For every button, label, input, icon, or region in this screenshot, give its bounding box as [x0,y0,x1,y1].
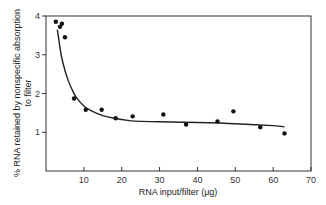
data-point [54,20,58,24]
y-axis-ticks: 1234 [35,11,46,137]
data-point [184,122,188,126]
data-point [215,119,219,123]
svg-text:% RNA retained by nonspecific: % RNA retained by nonspecific absorption [12,9,22,177]
y-tick-label: 4 [35,11,40,21]
y-axis-label: % RNA retained by nonspecific absorption… [12,9,33,177]
data-point [282,131,286,135]
fitted-curve [57,30,284,127]
y-tick-label: 1 [35,127,40,137]
x-tick-label: 20 [117,175,127,185]
data-point [84,108,88,112]
data-point [231,109,235,113]
y-tick-label: 3 [35,50,40,60]
data-point [72,96,76,100]
plot-frame [46,16,311,171]
x-tick-label: 60 [268,175,278,185]
chart: 1234 10203040506070 RNA input/filter (μg… [0,0,326,205]
data-point [161,112,165,116]
x-tick-label: 50 [230,175,240,185]
data-point [99,108,103,112]
x-axis-label: RNA input/filter (μg) [139,187,218,197]
x-axis-ticks: 10203040506070 [79,167,316,185]
x-tick-label: 70 [306,175,316,185]
x-tick-label: 40 [192,175,202,185]
y-tick-label: 2 [35,89,40,99]
data-points [54,20,287,136]
data-point [130,114,134,118]
data-point [258,125,262,129]
x-tick-label: 10 [79,175,89,185]
x-tick-label: 30 [155,175,165,185]
data-point [113,116,117,120]
data-point [60,22,64,26]
svg-text:to filter: to filter [23,79,33,106]
data-point [63,35,67,39]
